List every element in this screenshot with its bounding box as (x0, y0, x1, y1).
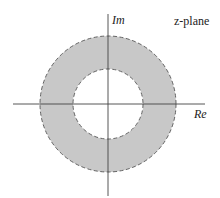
diagram-graphics (0, 0, 220, 198)
imaginary-axis-label: Im (112, 14, 125, 26)
plane-label: z-plane (174, 15, 209, 27)
real-axis-label: Re (194, 108, 207, 120)
z-plane-diagram: Im z-plane Re (0, 0, 220, 198)
